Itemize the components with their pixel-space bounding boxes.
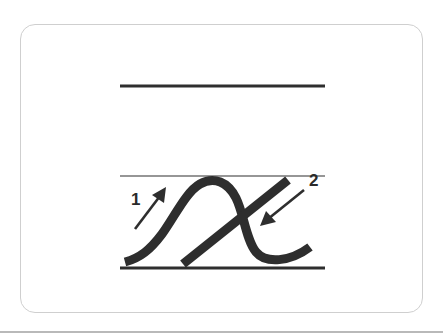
stroke-1-curve — [125, 180, 310, 262]
page-bottom-divider — [0, 331, 443, 333]
stroke-1-label: 1 — [131, 190, 140, 209]
stroke-2-label: 2 — [309, 171, 318, 190]
letter-x-stroke-diagram: 1 2 — [0, 0, 443, 335]
